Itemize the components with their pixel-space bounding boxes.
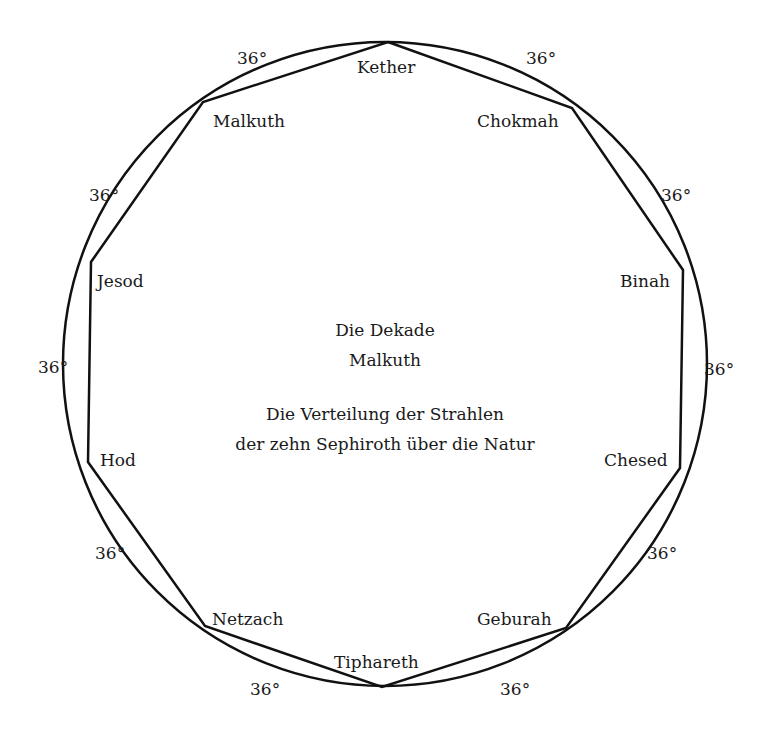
label-chokmah: Chokmah	[477, 113, 559, 130]
label-chesed: Chesed	[604, 452, 668, 469]
angle-label-malkuth-kether: 36°	[237, 50, 267, 67]
label-tiphareth: Tiphareth	[334, 654, 419, 671]
label-jesod: Jesod	[97, 273, 144, 290]
angle-label-chesed-geburah: 36°	[647, 545, 677, 562]
subtitle-line-2: der zehn Sephiroth über die Natur	[185, 436, 585, 453]
angle-label-binah-chesed: 36°	[704, 361, 734, 378]
angle-label-tiphareth-netzach: 36°	[250, 681, 280, 698]
title-line-2: Malkuth	[185, 352, 585, 369]
label-netzach: Netzach	[212, 611, 283, 628]
angle-label-jesod-malkuth: 36°	[89, 187, 119, 204]
angle-label-kether-chokmah: 36°	[526, 50, 556, 67]
angle-label-netzach-hod: 36°	[95, 545, 125, 562]
angle-label-geburah-tiphareth: 36°	[500, 681, 530, 698]
subtitle-line-1: Die Verteilung der Strahlen	[185, 406, 585, 423]
title-line-1: Die Dekade	[185, 322, 585, 339]
label-binah: Binah	[620, 273, 670, 290]
label-geburah: Geburah	[477, 611, 552, 628]
label-kether: Kether	[357, 59, 415, 76]
label-malkuth: Malkuth	[213, 113, 285, 130]
angle-label-chokmah-binah: 36°	[661, 187, 691, 204]
label-hod: Hod	[100, 452, 136, 469]
angle-label-hod-jesod: 36°	[38, 359, 68, 376]
